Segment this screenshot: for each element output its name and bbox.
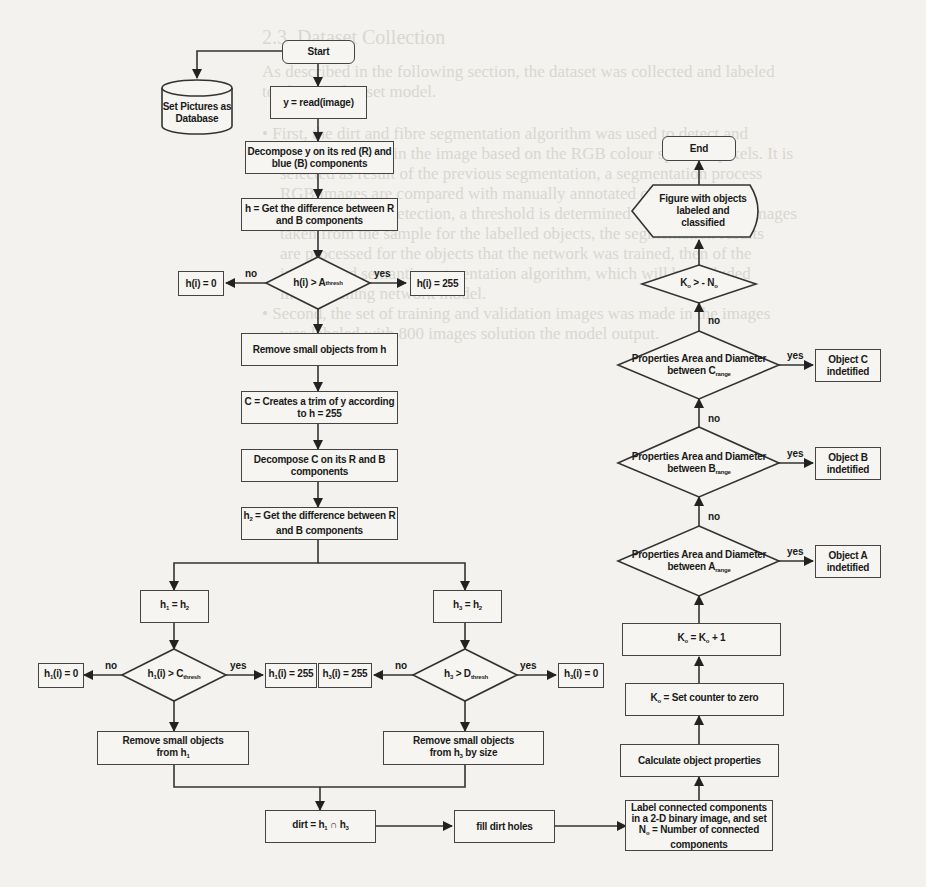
object-b-node: Object B indetified [815,447,881,480]
dirt-intersection-node: dirt = h1 ∩ h3 [265,810,376,843]
edge-label-yes: yes [787,448,804,459]
decision-b-range-label: Properties Area and Diameterbetween Bran… [623,452,775,476]
label-connected-components-node: Label connected componentsin a 2-D binar… [625,800,773,851]
decision-d-thresh-label: h3 > Dthresh [420,668,512,682]
remove-small-objects-h1-node: Remove small objectsfrom h1 [97,731,249,765]
remove-small-objects-h-node: Remove small objects from h [241,333,398,366]
edge-label-no: no [708,413,720,424]
h-255-node: h(i) = 255 [410,271,465,296]
edge-label-yes: yes [787,546,804,557]
object-a-node: Object A indetified [815,545,881,578]
h1-assign-node: h1 = h2 [140,590,209,623]
display-output-node: Figure with objects labeled and classifi… [655,190,751,232]
fill-dirt-holes-node: fill dirt holes [454,810,555,843]
h-zero-node: h(i) = 0 [178,271,224,296]
h3-255-node: h3(i) = 255 [318,663,372,688]
decompose-c-node: Decompose C on its R and B components [241,449,398,482]
edge-label-no: no [395,660,407,671]
edge-label-yes: yes [520,660,537,671]
h1-255-node: h1(i) = 255 [265,663,317,688]
h1-zero-node: h1(i) = 0 [38,663,84,688]
edge-label-yes: yes [230,660,247,671]
edge-label-yes: yes [787,350,804,361]
edge-label-no: no [708,315,720,326]
object-c-node: Object C indetified [815,349,881,382]
remove-small-objects-h3-node: Remove small objectsfrom h3 by size [383,731,544,765]
h3-zero-node: h3(i) = 0 [558,663,604,688]
counter-increment-node: Ko = Ko + 1 [622,623,781,656]
read-image-node: y = read(image) [270,86,367,119]
h2-difference-node: h2 = Get the difference between R and B … [241,507,398,540]
h-difference-node: h = Get the difference between R and B c… [241,198,398,231]
trim-node: C = Creates a trim of y according to h =… [241,391,398,424]
counter-zero-node: Ko = Set counter to zero [625,683,784,716]
calculate-properties-node: Calculate object properties [620,744,779,777]
edge-label-no: no [708,511,720,522]
edge-label-no: no [105,660,117,671]
edge-label-no: no [245,268,257,279]
h3-assign-node: h3 = h2 [433,590,502,623]
end-node: End [662,136,736,161]
start-node: Start [282,40,355,64]
database-node: Set Pictures as Database [162,98,232,128]
decompose-y-node: Decompose y on its red (R) and blue (B) … [245,141,394,174]
decision-a-thresh-label: h(i) > Athresh [272,276,364,290]
decision-c-thresh-label: h1(i) > Cthresh [128,668,220,682]
decision-a-range-label: Properties Area and Diameterbetween Aran… [623,550,775,574]
edge-label-yes: yes [374,268,391,279]
decision-c-range-label: Properties Area and Diameterbetween Cran… [623,354,775,378]
decision-k-label: Ko > - No [660,277,738,291]
